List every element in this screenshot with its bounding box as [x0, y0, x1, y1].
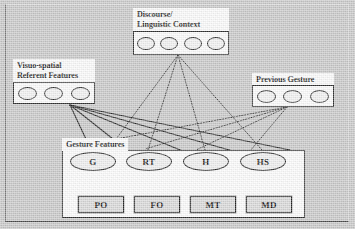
- figure-frame: [5, 4, 349, 222]
- figure-canvas: Discourse/ Linguistic Context Visuo-spat…: [0, 0, 355, 229]
